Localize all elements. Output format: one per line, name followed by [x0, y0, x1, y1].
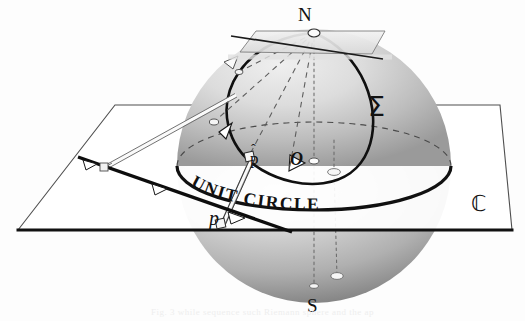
- label-north-pole: N: [298, 5, 312, 24]
- label-p-hat: ˆ p: [250, 150, 259, 167]
- plane-intersection-node: [100, 163, 108, 171]
- origin-marker: [309, 158, 319, 164]
- figure-canvas: UNIT CIRCLE N S Σ ℂ ˆ p O p Fig. 3 while…: [0, 0, 525, 321]
- sub-origin-marker: [328, 169, 341, 176]
- p-hat-circumflex: ˆ: [251, 143, 256, 157]
- label-complex-plane: ℂ: [471, 193, 486, 215]
- circle-left-marker: [209, 119, 218, 125]
- label-sphere-sigma: Σ: [368, 93, 385, 120]
- label-projected-point: p: [209, 208, 219, 228]
- scan-ghost-text: Fig. 3 while sequence such Riemann spher…: [0, 307, 525, 317]
- stereographic-projection-svg: UNIT CIRCLE: [0, 0, 525, 321]
- north-pole-marker: [308, 29, 320, 37]
- circle-upper-marker: [235, 69, 243, 74]
- label-origin: O: [290, 150, 303, 168]
